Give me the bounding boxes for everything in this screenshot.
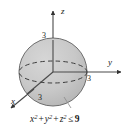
figure-container: z y x 3 3 3 x2+y2+z2≤9 (0, 0, 131, 132)
eq-relation: ≤ (68, 114, 73, 124)
svg-text:x2+y2+z2≤9: x2+y2+z2≤9 (29, 113, 80, 125)
tick-label-z-3: 3 (42, 31, 46, 40)
axis-label-y: y (107, 57, 112, 67)
tick-label-y-3: 3 (87, 74, 91, 83)
eq-z-exp: 2 (63, 113, 67, 120)
eq-plus-2: + (53, 114, 58, 124)
eq-value: 9 (75, 114, 80, 124)
tick-label-x-3: 3 (38, 93, 42, 102)
axis-label-z: z (60, 6, 65, 16)
sphere-diagram-svg: z y x 3 3 3 x2+y2+z2≤9 (0, 0, 131, 132)
axis-label-x: x (10, 96, 15, 106)
eq-plus-1: + (38, 114, 43, 124)
equation-label: x2+y2+z2≤9 (29, 113, 80, 125)
